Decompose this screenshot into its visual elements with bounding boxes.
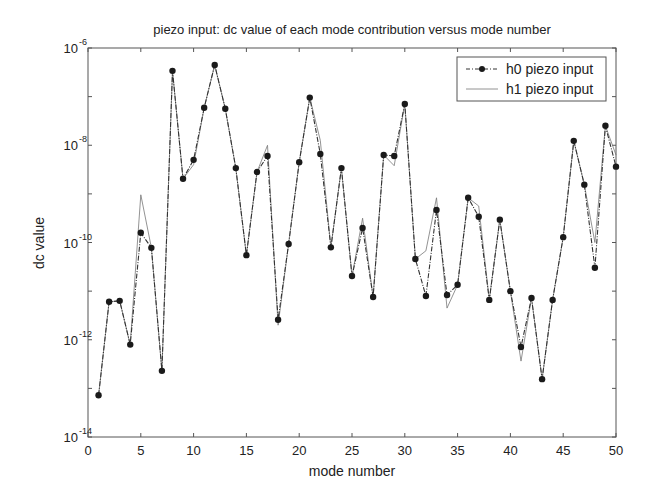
x-tick-label: 40	[503, 443, 517, 458]
y-tick-label: 10	[64, 41, 78, 56]
data-point	[528, 295, 534, 301]
data-point	[602, 123, 608, 129]
data-point	[454, 282, 460, 288]
data-point	[233, 165, 239, 171]
data-point	[95, 392, 101, 398]
data-point	[296, 159, 302, 165]
y-tick-exponent: -10	[79, 232, 92, 242]
data-point	[138, 230, 144, 236]
data-point	[243, 252, 249, 258]
y-tick-exponent: -8	[79, 134, 87, 144]
data-point	[571, 138, 577, 144]
x-tick-label: 25	[345, 443, 359, 458]
data-point	[338, 165, 344, 171]
y-tick-exponent: -6	[79, 37, 87, 47]
y-axis-label: dc value	[31, 217, 47, 269]
data-point	[613, 163, 619, 169]
x-tick-label: 0	[84, 443, 91, 458]
data-point	[465, 195, 471, 201]
y-tick-exponent: -12	[79, 329, 92, 339]
data-point	[307, 94, 313, 100]
data-point	[497, 216, 503, 222]
data-point	[201, 105, 207, 111]
data-point	[116, 298, 122, 304]
legend-h0-label: h0 piezo input	[506, 61, 593, 77]
data-point	[402, 101, 408, 107]
data-point	[549, 297, 555, 303]
x-tick-label: 5	[137, 443, 144, 458]
data-point	[412, 256, 418, 262]
data-point	[539, 376, 545, 382]
legend-h0-marker-icon	[479, 66, 485, 72]
data-point	[433, 207, 439, 213]
data-point	[127, 341, 133, 347]
data-point	[254, 169, 260, 175]
legend: h0 piezo input h1 piezo input	[457, 57, 606, 101]
plot-area	[88, 48, 616, 437]
x-tick-label: 50	[609, 443, 623, 458]
data-point	[444, 292, 450, 298]
data-point	[285, 241, 291, 247]
data-point	[476, 214, 482, 220]
data-point	[560, 234, 566, 240]
legend-h1-label: h1 piezo input	[506, 81, 593, 97]
data-point	[328, 244, 334, 250]
data-point	[518, 344, 524, 350]
data-point	[380, 152, 386, 158]
y-tick-label: 10	[64, 333, 78, 348]
x-tick-label: 30	[398, 443, 412, 458]
data-point	[317, 151, 323, 157]
data-point	[507, 288, 513, 294]
y-tick-label: 10	[64, 138, 78, 153]
data-point	[106, 299, 112, 305]
data-point	[359, 225, 365, 231]
x-axis-label: mode number	[309, 463, 396, 479]
x-tick-label: 35	[450, 443, 464, 458]
y-tick-exponent: -14	[79, 426, 92, 436]
y-tick-label: 10	[64, 236, 78, 251]
data-point	[391, 153, 397, 159]
chart-canvas: piezo input: dc value of each mode contr…	[0, 0, 657, 504]
data-point	[592, 265, 598, 271]
y-tick-label: 10	[64, 430, 78, 445]
data-point	[486, 297, 492, 303]
data-point	[423, 293, 429, 299]
data-point	[349, 273, 355, 279]
data-point	[370, 294, 376, 300]
data-point	[275, 317, 281, 323]
chart-title: piezo input: dc value of each mode contr…	[153, 22, 551, 37]
data-point	[264, 153, 270, 159]
x-tick-label: 15	[239, 443, 253, 458]
x-tick-label: 45	[556, 443, 570, 458]
data-point	[169, 68, 175, 74]
data-point	[212, 62, 218, 68]
data-point	[159, 368, 165, 374]
x-tick-label: 10	[186, 443, 200, 458]
data-point	[190, 157, 196, 163]
data-point	[222, 106, 228, 112]
data-point	[581, 181, 587, 187]
data-point	[148, 245, 154, 251]
data-point	[180, 176, 186, 182]
x-tick-label: 20	[292, 443, 306, 458]
